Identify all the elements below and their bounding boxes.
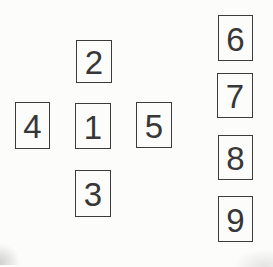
box-2-label: 2 [85,46,103,79]
box-7-label: 7 [226,80,244,113]
scan-smudge-bottom-left [0,243,20,265]
box-6: 6 [218,15,253,61]
box-9-label: 9 [226,204,244,237]
box-1-label: 1 [84,111,102,144]
box-6-label: 6 [226,23,244,56]
box-1: 1 [75,103,111,149]
box-3: 3 [75,170,111,217]
box-8: 8 [218,135,253,180]
box-5: 5 [136,102,172,148]
box-4-label: 4 [23,110,41,143]
box-3-label: 3 [84,178,102,211]
box-2: 2 [76,40,112,83]
box-8-label: 8 [226,142,244,175]
box-4: 4 [15,102,50,149]
scan-smudge-bottom-right [233,249,273,267]
box-7: 7 [217,73,253,118]
box-9: 9 [218,196,253,242]
box-5-label: 5 [145,110,163,143]
